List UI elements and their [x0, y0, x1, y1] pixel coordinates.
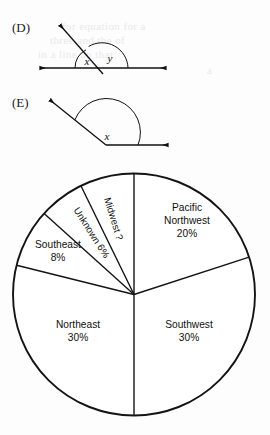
regions-pie-chart: Pacific Northwest 20% Southwest 30% Nort… — [0, 0, 270, 435]
pie-slice-value-southeast: 8% — [51, 252, 66, 263]
pie-slice-value-northeast: 30% — [68, 332, 88, 343]
pie-slice-label-pacific-northwest: Pacific — [172, 202, 202, 213]
worksheet-page: for equation for a three and the of in a… — [0, 0, 270, 435]
pie-slice-label-southwest: Southwest — [165, 319, 213, 330]
pie-slice-value-pacific-northwest: 20% — [177, 228, 197, 239]
pie-slice-value-southwest: 30% — [179, 332, 199, 343]
pie-slice-label-pacific-northwest-line2: Northwest — [164, 215, 210, 226]
pie-slice-label-southeast: Southeast — [35, 239, 81, 250]
pie-slice-label-northeast: Northeast — [56, 319, 100, 330]
